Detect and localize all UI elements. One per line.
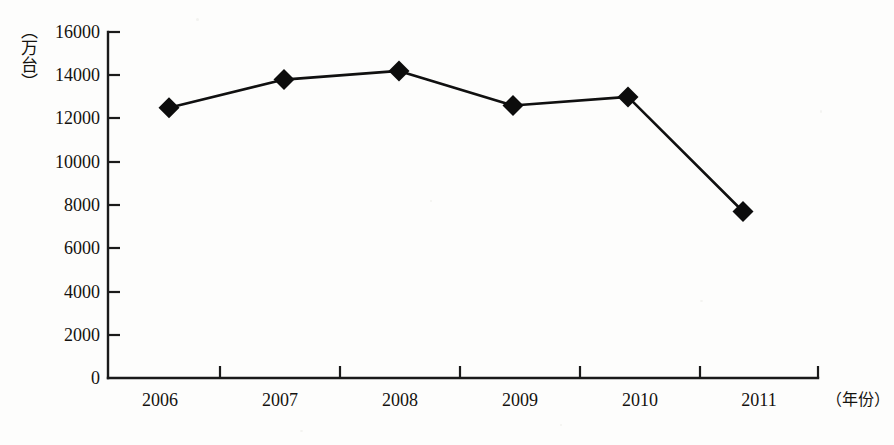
data-point-markers xyxy=(159,60,754,222)
x-tick-label-2009: 2009 xyxy=(480,391,560,409)
y-tick-label-6000: 6000 xyxy=(28,239,100,257)
y-tick-label-8000: 8000 xyxy=(28,196,100,214)
series-polyline xyxy=(169,71,743,212)
data-point-marker-2006 xyxy=(159,97,180,118)
y-tick-label-14000: 14000 xyxy=(28,66,100,84)
y-axis-ticks xyxy=(108,32,120,335)
line-chart: （万台） 16000 14000 12000 10000 8000 6000 4… xyxy=(0,0,894,445)
data-point-marker-2008 xyxy=(389,60,410,81)
y-tick-label-10000: 10000 xyxy=(28,153,100,171)
data-point-marker-2009 xyxy=(503,95,524,116)
x-axis-title: （年份） xyxy=(826,391,890,409)
data-point-marker-2007 xyxy=(274,69,295,90)
x-tick-label-2006: 2006 xyxy=(120,391,200,409)
chart-axes xyxy=(108,32,818,378)
y-tick-label-12000: 12000 xyxy=(28,109,100,127)
x-tick-label-2010: 2010 xyxy=(600,391,680,409)
x-tick-label-2007: 2007 xyxy=(240,391,320,409)
y-tick-label-2000: 2000 xyxy=(28,326,100,344)
x-tick-label-2008: 2008 xyxy=(360,391,440,409)
x-axis-ticks xyxy=(220,366,818,378)
x-tick-label-2011: 2011 xyxy=(719,391,799,409)
chart-plot-area xyxy=(0,0,894,445)
y-tick-label-16000: 16000 xyxy=(28,23,100,41)
y-tick-label-0: 0 xyxy=(28,369,100,387)
y-tick-label-4000: 4000 xyxy=(28,283,100,301)
data-series-line xyxy=(169,71,743,212)
